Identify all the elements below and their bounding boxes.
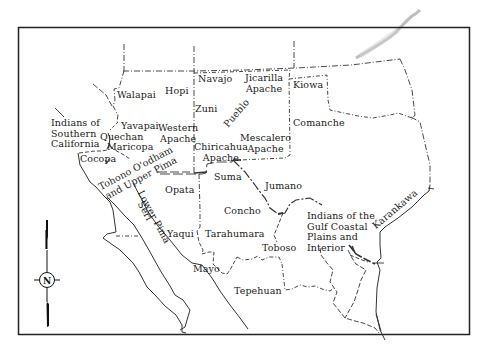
label-jicarilla-apache: Jicarilla Apache bbox=[245, 73, 283, 94]
compass-north-label: N bbox=[43, 276, 51, 286]
label-toboso: Toboso bbox=[262, 243, 296, 254]
label-zuni: Zuni bbox=[195, 104, 217, 115]
label-navajo: Navajo bbox=[198, 74, 232, 85]
label-gulf-coastal-plains-interior: Indians of the Gulf Coastal Plains and I… bbox=[307, 211, 375, 253]
boundary-tx-east bbox=[411, 117, 430, 185]
label-jumano: Jumano bbox=[265, 181, 302, 192]
label-chiricahua-apache: Chiricahua Apache bbox=[194, 142, 248, 163]
label-yaqui: Yaqui bbox=[167, 229, 194, 240]
label-cocopa: Cocopa bbox=[80, 154, 116, 165]
boundary-east-ok bbox=[400, 59, 415, 120]
label-hopi: Hopi bbox=[165, 86, 189, 97]
label-yavapai: Yavapai bbox=[121, 121, 159, 132]
label-tepehuan: Tepehuan bbox=[234, 286, 282, 297]
label-suma: Suma bbox=[214, 172, 242, 183]
label-kiowa: Kiowa bbox=[293, 80, 323, 91]
paper-smudge bbox=[356, 10, 420, 58]
label-comanche: Comanche bbox=[293, 118, 345, 129]
label-western-apache: Western Apache bbox=[158, 123, 198, 144]
compass-icon: N bbox=[34, 220, 60, 327]
map-canvas: N bbox=[0, 0, 485, 363]
label-opata: Opata bbox=[165, 185, 195, 196]
boundary-opata bbox=[197, 174, 200, 231]
label-indians-of-southern-california: Indians of Southern California bbox=[51, 118, 100, 150]
boundary-toboso bbox=[274, 213, 283, 242]
label-concho: Concho bbox=[224, 206, 261, 217]
label-walapai: Walapai bbox=[117, 90, 156, 101]
label-tarahumara: Tarahumara bbox=[205, 229, 265, 240]
label-mayo: Mayo bbox=[193, 264, 220, 275]
label-maricopa: Maricopa bbox=[107, 142, 154, 153]
boundary-north bbox=[123, 59, 400, 71]
